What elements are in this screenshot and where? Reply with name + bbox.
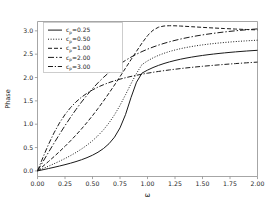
x-tick-label: 2.00 [251, 180, 265, 187]
x-tick-label: 0.75 [113, 180, 127, 187]
y-tick-label: 1.0 [23, 120, 33, 127]
curve-c-p-3-00 [38, 62, 258, 171]
x-axis-title: ω [145, 191, 151, 199]
x-tick-label: 0.00 [31, 180, 45, 187]
y-tick-label: 0.5 [23, 144, 33, 151]
chart-canvas: cp=0.25cp=0.50cp=1.00cp=2.00cp=3.00 0.00… [0, 0, 274, 209]
x-tick-label: 0.25 [58, 180, 72, 187]
y-tick-label: 2.5 [23, 50, 33, 57]
x-tick-label: 1.75 [223, 180, 237, 187]
y-tick-label: 2.0 [23, 74, 33, 81]
x-tick-label: 1.00 [141, 180, 155, 187]
y-tick-label: 0.0 [23, 167, 33, 174]
y-tick-label: 1.5 [23, 97, 33, 104]
y-axis-title: Phase [4, 89, 12, 109]
chart-legend: cp=0.25cp=0.50cp=1.00cp=2.00cp=3.00 [44, 23, 123, 73]
x-tick-label: 1.25 [168, 180, 182, 187]
x-tick-label: 0.50 [86, 180, 100, 187]
phase-response-figure: cp=0.25cp=0.50cp=1.00cp=2.00cp=3.00 0.00… [0, 0, 274, 209]
x-tick-label: 1.50 [196, 180, 210, 187]
y-tick-label: 3.0 [23, 27, 33, 34]
